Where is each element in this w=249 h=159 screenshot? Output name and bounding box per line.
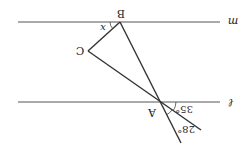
- angle-arc-28: [166, 110, 172, 115]
- label-line-m: m: [228, 15, 238, 28]
- label-angle-28: 28°: [177, 124, 195, 135]
- label-angle-35: 35°: [175, 104, 193, 115]
- label-point-c: C: [76, 44, 84, 57]
- label-line-l: ℓ: [228, 96, 233, 109]
- segment-ca-extended: [88, 51, 201, 130]
- segment-ba-extended: [120, 22, 181, 143]
- label-point-a: A: [147, 106, 157, 119]
- angle-arc-x: [110, 22, 113, 29]
- label-angle-x: x: [100, 23, 106, 34]
- geometry-diagram: m ℓ B C A x 35° 28°: [0, 0, 249, 159]
- label-point-b: B: [117, 7, 125, 20]
